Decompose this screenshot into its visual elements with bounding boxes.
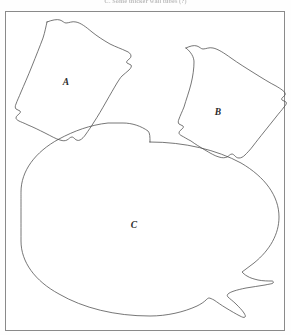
figure-plate: C. Some thicker wall tubes (?) A B C — [0, 0, 291, 335]
shape-label-b: B — [214, 107, 221, 117]
shape-label-c: C — [131, 220, 138, 230]
line-drawing-canvas: A B C — [0, 0, 291, 335]
shape-label-a: A — [62, 77, 69, 87]
figure-frame — [6, 12, 285, 331]
